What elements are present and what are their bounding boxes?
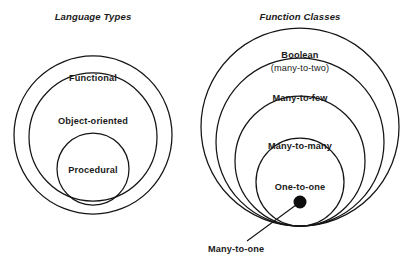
callout-leader-line [247, 205, 296, 241]
ring-object-oriented-outline [29, 73, 157, 201]
many-to-one-dot-icon [294, 196, 307, 209]
ring-label-procedural: Procedural [68, 165, 118, 175]
ring-sublabel-boolean-many-to-two: (many-to-two) [271, 63, 330, 73]
panel-title-language-types: Language Types [55, 11, 132, 22]
ring-label-one-to-one: One-to-one [275, 182, 326, 192]
ring-label-object-oriented: Object-oriented [58, 116, 128, 126]
panel-function-classes: Function Classes Boolean (many-to-two) M… [201, 11, 399, 254]
figure-canvas: Language Types Functional Object-oriente… [0, 0, 416, 271]
panel-language-types: Language Types Functional Object-oriente… [14, 11, 172, 214]
ring-label-boolean: Boolean [281, 50, 319, 60]
panel-title-function-classes: Function Classes [259, 11, 340, 22]
ring-label-many-to-many: Many-to-many [268, 141, 333, 151]
ring-label-many-to-few: Many-to-few [272, 93, 328, 103]
diagram-svg: Language Types Functional Object-oriente… [0, 0, 416, 271]
ring-label-functional: Functional [69, 73, 117, 83]
callout-label-many-to-one: Many-to-one [208, 244, 264, 254]
